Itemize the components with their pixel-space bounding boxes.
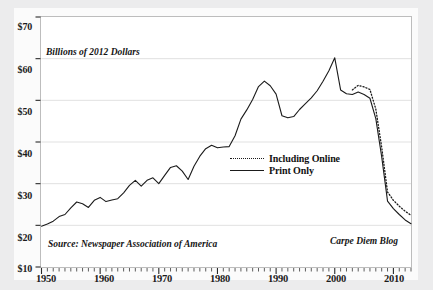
xtick-label-2010: 2010: [374, 273, 414, 284]
chart-legend: Including Online Print Only: [230, 152, 340, 176]
xtick-label-1960: 1960: [84, 273, 124, 284]
ytick-label-50: $50: [2, 106, 32, 117]
solid-line-icon: [230, 165, 264, 175]
source-note: Source: Newspaper Association of America: [48, 239, 217, 249]
ytick-label-70: $70: [2, 21, 32, 32]
legend-label-print-only: Print Only: [269, 165, 314, 176]
xtick-label-2000: 2000: [316, 273, 356, 284]
xtick-label-1980: 1980: [200, 273, 240, 284]
axis-unit-note: Billions of 2012 Dollars: [46, 47, 140, 57]
credit-note: Carpe Diem Blog: [330, 236, 398, 246]
ytick-label-30: $30: [2, 190, 32, 201]
ytick-label-20: $20: [2, 232, 32, 243]
ytick-label-40: $40: [2, 148, 32, 159]
dotted-line-icon: [230, 153, 264, 163]
ytick-label-60: $60: [2, 64, 32, 75]
xtick-label-1990: 1990: [258, 273, 298, 284]
legend-label-including-online: Including Online: [269, 153, 340, 164]
legend-item-including-online: Including Online: [230, 152, 340, 164]
xtick-label-1970: 1970: [142, 273, 182, 284]
xtick-label-1950: 1950: [26, 273, 66, 284]
chart-screenshot: $70 $60 $50 $40 $30 $20 $10 1950 1960 19…: [0, 0, 433, 290]
legend-item-print-only: Print Only: [230, 164, 340, 176]
